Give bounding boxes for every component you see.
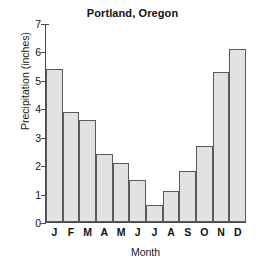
y-axis-tick-label: 3 bbox=[35, 132, 41, 143]
bar-february bbox=[63, 112, 80, 222]
bar-december bbox=[229, 49, 246, 222]
x-axis-line bbox=[45, 222, 246, 223]
x-tick-label-october: O bbox=[196, 226, 213, 238]
bar-series bbox=[46, 24, 246, 222]
bar-november bbox=[213, 72, 230, 222]
bar-slot bbox=[146, 24, 163, 222]
bar-slot bbox=[63, 24, 80, 222]
x-axis-label: Month bbox=[45, 246, 246, 258]
x-tick-label-january: J bbox=[46, 226, 63, 238]
bar-slot bbox=[179, 24, 196, 222]
bar-slot bbox=[213, 24, 230, 222]
x-tick-label-may: M bbox=[113, 226, 130, 238]
bar-july bbox=[146, 205, 163, 222]
x-tick-label-december: D bbox=[229, 226, 246, 238]
x-tick-label-march: M bbox=[79, 226, 96, 238]
bar-slot bbox=[96, 24, 113, 222]
bar-slot bbox=[163, 24, 180, 222]
bar-slot bbox=[46, 24, 63, 222]
bar-august bbox=[163, 191, 180, 222]
y-axis-tick-label: 7 bbox=[35, 19, 41, 30]
x-tick-label-july: J bbox=[146, 226, 163, 238]
x-tick-label-november: N bbox=[213, 226, 230, 238]
bar-january bbox=[46, 69, 63, 222]
plot-area: 01234567 bbox=[45, 24, 246, 223]
bar-slot bbox=[113, 24, 130, 222]
x-tick-label-february: F bbox=[63, 226, 80, 238]
y-axis-tick-label: 2 bbox=[35, 161, 41, 172]
bar-slot bbox=[79, 24, 96, 222]
y-axis-tick-label: 0 bbox=[35, 218, 41, 229]
bar-slot bbox=[129, 24, 146, 222]
bar-may bbox=[113, 163, 130, 222]
bar-march bbox=[79, 120, 96, 222]
y-axis-tick-label: 6 bbox=[35, 47, 41, 58]
y-axis-tick-label: 5 bbox=[35, 76, 41, 87]
y-axis-label: Precipitation (inches) bbox=[19, 1, 31, 161]
bar-slot bbox=[229, 24, 246, 222]
y-axis-tick-label: 1 bbox=[35, 189, 41, 200]
x-axis-tick-labels: JFMAMJJASOND bbox=[46, 226, 246, 238]
y-axis-tick-mark bbox=[41, 223, 46, 224]
x-tick-label-september: S bbox=[179, 226, 196, 238]
x-tick-label-april: A bbox=[96, 226, 113, 238]
x-tick-label-august: A bbox=[163, 226, 180, 238]
precipitation-bar-chart: Portland, Oregon Precipitation (inches) … bbox=[0, 0, 265, 268]
y-axis-tick-label: 4 bbox=[35, 104, 41, 115]
bar-june bbox=[129, 180, 146, 222]
bar-october bbox=[196, 146, 213, 222]
bar-april bbox=[96, 154, 113, 222]
x-tick-label-june: J bbox=[129, 226, 146, 238]
bar-september bbox=[179, 171, 196, 222]
bar-slot bbox=[196, 24, 213, 222]
